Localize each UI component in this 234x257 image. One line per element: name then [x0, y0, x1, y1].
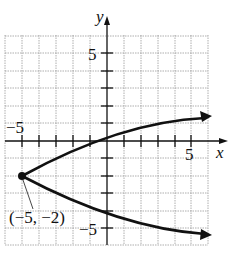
graph: y x −5 5 5 −5 (−5, −2)	[0, 0, 234, 257]
upper-arrow-icon	[200, 111, 212, 122]
y-tick-label-pos5: 5	[88, 45, 97, 64]
x-axis-label: x	[215, 143, 224, 162]
y-axis-label: y	[94, 7, 104, 26]
y-axis-arrow-icon	[104, 16, 110, 25]
y-tick-label-neg5: −5	[79, 220, 97, 239]
vertex-point	[18, 172, 26, 180]
x-tick-label-neg5: −5	[6, 118, 24, 137]
lower-arrow-icon	[200, 229, 212, 240]
vertex-label: (−5, −2)	[9, 208, 65, 227]
vertex-leader-line	[23, 180, 33, 209]
x-tick-label-pos5: 5	[185, 145, 194, 164]
